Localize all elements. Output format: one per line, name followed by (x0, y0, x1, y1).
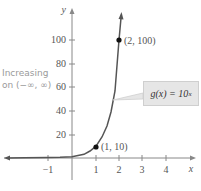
annotation-line: on (−∞, ∞) (2, 79, 51, 91)
y-tick-label: 80 (56, 58, 66, 69)
increasing-annotation: Increasing on (−∞, ∞) (2, 67, 51, 91)
x-tick-label: 1 (94, 164, 99, 175)
point-1-10 (93, 144, 98, 149)
point-label: (2, 100) (124, 35, 156, 47)
curve-left-arrow-icon (4, 156, 10, 161)
y-axis-arrow-icon (70, 8, 75, 14)
function-exponent: x (188, 90, 191, 98)
annotation-line: Increasing (2, 67, 51, 79)
point-2-100 (116, 37, 121, 42)
callout-pointer (113, 93, 143, 100)
y-tick-label: 40 (56, 105, 66, 116)
y-axis-label: y (61, 4, 67, 15)
function-label: g(x) = 10 (151, 88, 189, 99)
y-tick-label: 100 (51, 34, 66, 45)
y-tick-label: 60 (56, 81, 66, 92)
x-tick-label: 3 (140, 164, 145, 175)
x-axis-arrow-icon (190, 156, 196, 161)
function-label-box: g(x) = 10x (143, 81, 199, 106)
x-tick-label: −1 (43, 164, 54, 175)
x-tick-label: 4 (164, 164, 169, 175)
y-tick-label: 20 (56, 129, 66, 140)
point-label: (1, 10) (101, 141, 128, 153)
x-tick-label: 2 (117, 164, 122, 175)
x-axis-label: x (188, 163, 194, 174)
curve-up-arrow-icon (119, 12, 124, 20)
